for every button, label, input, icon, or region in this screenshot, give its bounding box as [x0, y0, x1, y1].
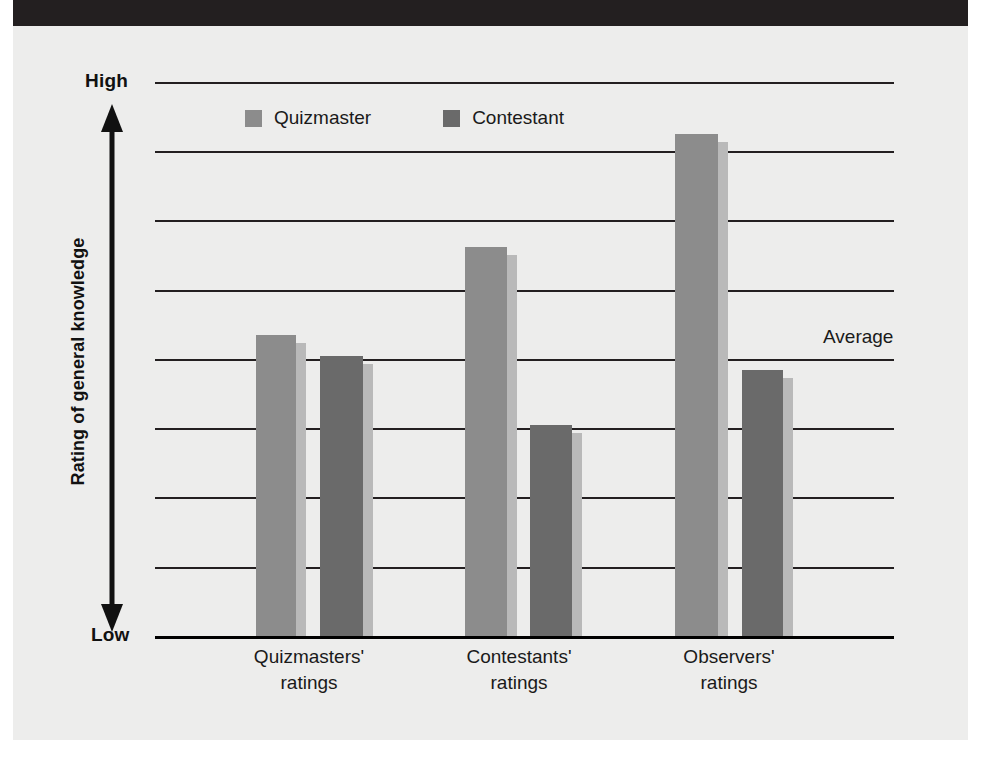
- category-label-line2: ratings: [619, 670, 839, 696]
- bar-body: [675, 134, 718, 636]
- bar-shadow: [572, 433, 582, 636]
- bar-body: [530, 425, 572, 636]
- legend-swatch-icon: [443, 110, 460, 127]
- category-label-contestants: Contestants' ratings: [409, 644, 629, 696]
- bar-quizmaster-g3[interactable]: [675, 134, 718, 636]
- bar-body: [320, 356, 363, 636]
- category-label-line2: ratings: [199, 670, 419, 696]
- axis-baseline: [155, 636, 894, 639]
- bar-body: [742, 370, 783, 636]
- double-headed-vertical-arrow-icon: [99, 104, 125, 632]
- category-label-observers: Observers' ratings: [619, 644, 839, 696]
- bar-shadow: [507, 255, 517, 636]
- figure-panel: High Low Rating of general knowledge Qui…: [13, 26, 968, 740]
- average-annotation: Average: [823, 326, 893, 348]
- gridline-7: [155, 151, 894, 153]
- bar-quizmaster-g1[interactable]: [256, 335, 296, 636]
- category-label-quizmasters: Quizmasters' ratings: [199, 644, 419, 696]
- category-label-line1: Contestants': [409, 644, 629, 670]
- category-label-line2: ratings: [409, 670, 629, 696]
- bar-shadow: [296, 343, 306, 636]
- legend-item-quizmaster[interactable]: Quizmaster: [245, 107, 371, 129]
- category-label-line1: Quizmasters': [199, 644, 419, 670]
- bar-contestant-g1[interactable]: [320, 356, 363, 636]
- bar-contestant-g3[interactable]: [742, 370, 783, 636]
- legend-item-contestant[interactable]: Contestant: [443, 107, 564, 129]
- bar-shadow: [783, 378, 793, 636]
- y-axis-title: Rating of general knowledge: [68, 152, 89, 572]
- gridline-5: [155, 290, 894, 292]
- bar-body: [465, 247, 507, 636]
- legend-label-contestant: Contestant: [472, 107, 564, 129]
- gridline-6: [155, 220, 894, 222]
- bar-body: [256, 335, 296, 636]
- legend-swatch-icon: [245, 110, 262, 127]
- legend: Quizmaster Contestant: [245, 107, 564, 129]
- top-banner: [13, 0, 968, 26]
- bar-contestant-g2[interactable]: [530, 425, 572, 636]
- bar-quizmaster-g2[interactable]: [465, 247, 507, 636]
- plot-area: High Low Rating of general knowledge Qui…: [13, 26, 968, 740]
- gridline-8: [155, 82, 894, 84]
- legend-label-quizmaster: Quizmaster: [274, 107, 371, 129]
- y-axis-high-label: High: [85, 70, 128, 92]
- category-label-line1: Observers': [619, 644, 839, 670]
- bar-shadow: [718, 142, 728, 636]
- bar-shadow: [363, 364, 373, 636]
